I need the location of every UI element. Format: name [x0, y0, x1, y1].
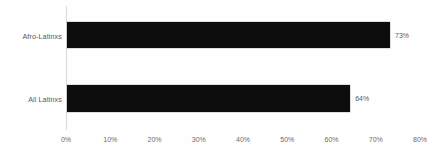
x-tick-label-50pct: 50% — [280, 136, 294, 143]
bar-value-afro-latinxs: 73% — [395, 32, 409, 39]
bar-value-all-latinxs: 64% — [355, 95, 369, 102]
bar-chart: Afro-Latinxs All Latinxs 73% 64% 0%10%20… — [0, 0, 446, 158]
bar-all-latinxs — [67, 85, 350, 112]
x-tick-label-70pct: 70% — [369, 136, 383, 143]
x-tick-label-80pct: 80% — [413, 136, 427, 143]
category-label-all-latinxs: All Latinxs — [6, 95, 62, 104]
category-label-afro-latinxs: Afro-Latinxs — [6, 32, 62, 41]
x-tick-label-60pct: 60% — [324, 136, 338, 143]
x-tick-label-10pct: 10% — [103, 136, 117, 143]
x-tick-label-40pct: 40% — [236, 136, 250, 143]
x-tick-label-20pct: 20% — [147, 136, 161, 143]
x-tick-label-30pct: 30% — [192, 136, 206, 143]
bar-afro-latinxs — [67, 22, 390, 48]
x-tick-label-0pct: 0% — [61, 136, 71, 143]
plot-area: Afro-Latinxs All Latinxs 73% 64% 0%10%20… — [0, 0, 446, 158]
